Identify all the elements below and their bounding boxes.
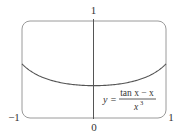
- x-tick-label-neg1: −1: [8, 111, 20, 123]
- x-tick-label-0: 0: [91, 121, 97, 133]
- formula-lhs: y =: [102, 94, 117, 105]
- formula-exponent: 3: [140, 99, 143, 106]
- chart: 1 −1 0 1 y = tan x − x x 3: [0, 0, 180, 137]
- formula-annotation: y = tan x − x x 3: [102, 88, 156, 112]
- formula-numerator: tan x − x: [120, 88, 154, 98]
- formula-denominator: x: [133, 102, 139, 112]
- y-tick-label-1: 1: [91, 4, 97, 16]
- x-tick-label-1: 1: [168, 111, 174, 123]
